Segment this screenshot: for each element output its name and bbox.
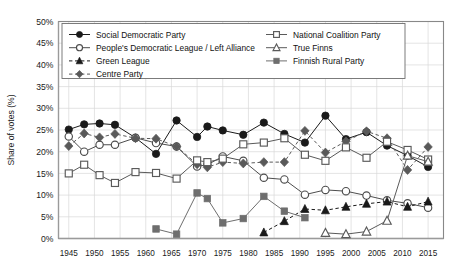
- y-tick-label: 20%: [36, 147, 54, 157]
- x-tick-label: 1950: [85, 249, 104, 258]
- data-point-marker: [301, 151, 308, 158]
- data-point-marker: [274, 58, 279, 63]
- data-point-marker: [219, 155, 226, 162]
- data-point-marker: [322, 157, 329, 164]
- x-tick-label: 1990: [291, 249, 310, 258]
- data-point-marker: [260, 158, 268, 167]
- data-point-marker: [65, 133, 72, 140]
- data-point-marker: [342, 144, 349, 151]
- data-point-marker: [152, 150, 159, 157]
- x-tick-label: 1975: [214, 249, 233, 258]
- data-point-marker: [424, 142, 432, 151]
- legend-label: People's Democratic League / Left Allian…: [96, 43, 255, 53]
- x-tick-label: 2010: [393, 249, 412, 258]
- x-tick-label: 1970: [188, 249, 207, 258]
- legend-label: Finnish Rural Party: [293, 56, 365, 66]
- data-point-marker: [76, 45, 82, 51]
- data-point-marker: [281, 135, 288, 142]
- legend-label: True Finns: [293, 43, 333, 53]
- data-point-marker: [260, 119, 267, 126]
- data-point-marker: [204, 195, 211, 202]
- y-tick-label: 40%: [36, 60, 54, 70]
- data-point-marker: [321, 228, 329, 236]
- chart-container: 0%5%10%15%20%25%30%35%40%45%50% 19451950…: [0, 0, 468, 273]
- data-point-marker: [96, 120, 103, 127]
- data-point-marker: [322, 186, 329, 193]
- y-tick-label: 15%: [36, 169, 54, 179]
- data-point-marker: [260, 174, 267, 181]
- y-tick-label: 10%: [36, 190, 54, 200]
- x-tick-label: 1945: [60, 249, 79, 258]
- y-tick-label: 35%: [36, 82, 54, 92]
- data-point-marker: [301, 205, 309, 213]
- chart-legend: Social Democratic PartyPeople's Democrat…: [62, 24, 405, 80]
- data-point-marker: [383, 216, 391, 224]
- x-tick-label: 1965: [162, 249, 181, 258]
- legend-label: National Coalition Party: [293, 30, 381, 40]
- y-tick-label: 45%: [36, 38, 54, 48]
- data-point-marker: [219, 220, 226, 227]
- data-point-marker: [424, 197, 432, 205]
- x-tick-label: 1980: [239, 249, 258, 258]
- data-point-marker: [342, 188, 349, 195]
- data-point-marker: [362, 227, 370, 235]
- x-tick-label: 1985: [265, 249, 284, 258]
- data-point-marker: [194, 157, 201, 164]
- y-tick-label: 5%: [41, 212, 54, 222]
- data-point-marker: [302, 214, 309, 221]
- data-point-marker: [111, 129, 119, 138]
- y-tick-label: 30%: [36, 103, 54, 113]
- data-point-marker: [80, 148, 87, 155]
- legend-item-people-s-democratic-league-left-alliance[interactable]: People's Democratic League / Left Allian…: [69, 43, 255, 53]
- data-point-marker: [301, 139, 308, 146]
- data-point-marker: [321, 148, 329, 157]
- y-axis-title: Share of votes (%): [6, 94, 16, 165]
- data-point-marker: [321, 206, 329, 214]
- data-point-marker: [240, 215, 247, 222]
- y-tick-label: 25%: [36, 125, 54, 135]
- legend-label: Social Democratic Party: [96, 30, 186, 40]
- data-point-marker: [173, 117, 180, 124]
- data-point-marker: [173, 175, 180, 182]
- y-tick-label: 50%: [36, 17, 54, 27]
- data-point-marker: [363, 199, 371, 207]
- data-point-marker: [280, 158, 288, 167]
- data-point-marker: [301, 191, 308, 198]
- data-point-marker: [260, 139, 267, 146]
- legend-label: Green League: [96, 56, 150, 66]
- data-point-marker: [204, 159, 211, 166]
- data-point-marker: [274, 32, 280, 38]
- data-point-marker: [153, 226, 160, 233]
- data-point-marker: [281, 176, 288, 183]
- data-point-marker: [65, 142, 73, 151]
- x-tick-label: 2000: [342, 249, 361, 258]
- y-axis-title-text: Share of votes (%): [6, 94, 16, 165]
- data-point-marker: [193, 133, 200, 140]
- data-point-marker: [281, 208, 288, 215]
- data-point-marker: [65, 170, 72, 177]
- x-tick-label: 2005: [368, 249, 387, 258]
- x-axis-tick-labels: 1945195019551960196519701975198019851990…: [60, 249, 438, 258]
- x-tick-label: 2015: [419, 249, 438, 258]
- data-point-marker: [81, 161, 88, 168]
- data-point-marker: [95, 133, 103, 142]
- election-results-line-chart: 0%5%10%15%20%25%30%35%40%45%50% 19451950…: [0, 0, 468, 273]
- y-axis-tick-labels: 0%5%10%15%20%25%30%35%40%45%50%: [36, 17, 54, 244]
- data-point-marker: [204, 123, 211, 130]
- data-point-marker: [363, 154, 370, 161]
- x-tick-label: 1955: [111, 249, 130, 258]
- data-point-marker: [80, 121, 87, 128]
- series-finnish-rural-party: [153, 190, 308, 238]
- data-point-marker: [76, 31, 82, 37]
- data-point-marker: [153, 169, 160, 176]
- data-point-marker: [240, 141, 247, 148]
- data-point-marker: [280, 217, 288, 225]
- y-tick-label: 0%: [41, 234, 54, 244]
- data-point-marker: [261, 193, 268, 200]
- data-point-marker: [194, 190, 201, 197]
- data-point-marker: [384, 138, 391, 145]
- data-point-marker: [65, 126, 72, 133]
- x-tick-label: 1995: [316, 249, 335, 258]
- data-point-marker: [132, 169, 139, 176]
- data-point-marker: [96, 172, 103, 179]
